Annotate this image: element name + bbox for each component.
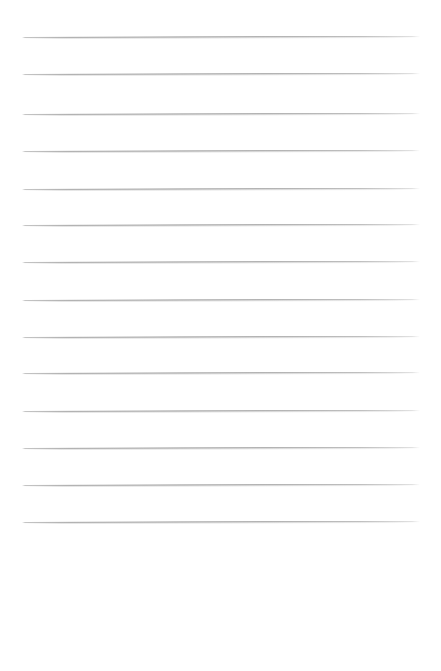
ruled-line-12: [22, 447, 420, 449]
ruled-line-10: [22, 372, 420, 374]
ruled-line-7: [22, 261, 420, 263]
ruled-line-6: [22, 224, 420, 226]
ruled-line-4: [22, 150, 420, 152]
ruled-line-9: [22, 336, 420, 338]
ruled-line-11: [22, 410, 420, 412]
ruled-line-13: [22, 484, 420, 486]
ruled-line-1: [22, 36, 420, 38]
ruled-line-2: [22, 73, 420, 75]
scanned-page: [0, 0, 441, 671]
ruled-line-3: [22, 113, 420, 115]
ruled-line-5: [22, 188, 420, 190]
ruled-line-8: [22, 299, 420, 301]
bottom-blank-area: [0, 525, 441, 671]
ruled-line-14: [22, 521, 420, 523]
